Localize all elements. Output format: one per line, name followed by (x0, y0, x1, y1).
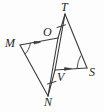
vertex-label-V: V (57, 71, 64, 83)
vertex-label-S: S (89, 66, 95, 78)
geometry-figure: T O M V S N (0, 0, 104, 112)
vertex-label-T: T (61, 1, 68, 13)
segment-MN (20, 45, 48, 96)
arrow-mark-VS (65, 68, 72, 71)
segment-MO (20, 38, 58, 45)
vertex-label-M: M (5, 37, 15, 49)
vertex-label-O: O (43, 26, 52, 38)
angle-arc-M (25, 43, 31, 54)
segment-ON (48, 38, 58, 96)
angle-arc-S (77, 56, 81, 69)
segment-TS (65, 14, 87, 68)
segment-TV (55, 14, 65, 70)
vertex-label-N: N (44, 96, 52, 108)
